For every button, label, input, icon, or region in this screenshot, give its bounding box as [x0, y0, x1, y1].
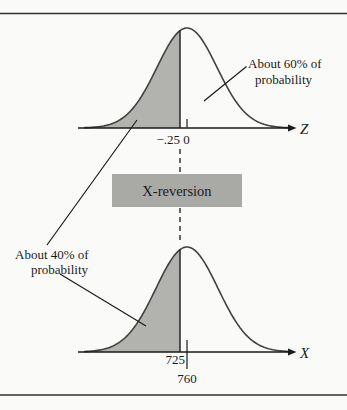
z-distribution-chart: −.25 0 Z About 60% of probability — [78, 28, 322, 147]
x-tick-label-boundary: 725 — [166, 352, 186, 367]
z-tick-label-center: 0 — [183, 132, 190, 147]
annotation-60pct-line2: probability — [255, 72, 313, 87]
figure-canvas: −.25 0 Z About 60% of probability X-reve… — [0, 0, 347, 410]
z-axis-arrowhead-icon — [288, 124, 297, 131]
x-axis-arrowhead-icon — [288, 348, 297, 355]
annotation-60pct-line1: About 60% of — [248, 56, 322, 71]
x-shaded-area — [84, 250, 180, 352]
x-axis-label: X — [299, 345, 310, 361]
annotation-40pct-line1: About 40% of — [15, 247, 89, 262]
annotation-40pct-line2: probability — [31, 262, 89, 277]
z-axis-label: Z — [300, 121, 309, 137]
x-tick-label-center: 760 — [177, 371, 197, 386]
x-reversion-label: X-reversion — [142, 183, 212, 199]
z-shaded-area — [84, 31, 180, 128]
pointer-line-40pct-lower — [60, 274, 146, 326]
pointer-line-60pct — [204, 67, 247, 102]
x-bell-curve — [84, 247, 291, 352]
x-distribution-chart: 725 760 X About 40% of probability — [15, 120, 310, 386]
x-reversion-connector: X-reversion — [112, 149, 242, 242]
z-tick-label-boundary: −.25 — [156, 132, 180, 147]
distribution-diagram: −.25 0 Z About 60% of probability X-reve… — [0, 0, 347, 410]
